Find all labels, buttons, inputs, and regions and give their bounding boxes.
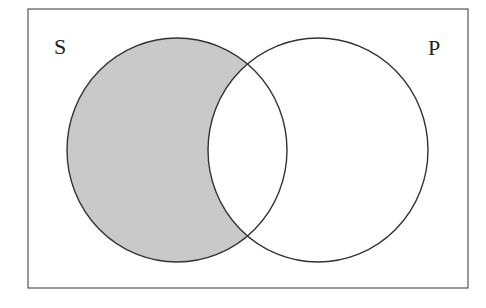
label-p: P [428,35,440,60]
label-s: S [54,34,66,59]
venn-diagram: S P [0,0,486,308]
